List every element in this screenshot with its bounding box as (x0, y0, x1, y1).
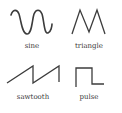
pulse-label: pulse (64, 93, 114, 101)
triangle-wave-icon (72, 10, 105, 34)
sawtooth-label: sawtooth (8, 93, 58, 101)
sine-label: sine (7, 42, 57, 50)
triangle-label: triangle (64, 42, 114, 50)
pulse-wave-icon (76, 68, 104, 87)
sawtooth-wave-icon (7, 66, 59, 83)
sine-wave-icon (11, 10, 52, 34)
